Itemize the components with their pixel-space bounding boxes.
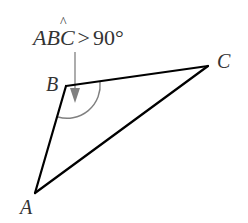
angle-hat: ^	[60, 15, 67, 30]
vertex-label-a: A	[18, 196, 33, 218]
angle-name-b: B	[46, 25, 59, 50]
angle-arc-b	[58, 82, 100, 118]
arrowhead-icon	[70, 88, 80, 103]
side-ca	[35, 66, 208, 193]
triangle-diagram: ABC>90° ^ A B C	[0, 0, 248, 223]
condition-value: 90°	[93, 25, 124, 50]
svg-text:ABC>90°: ABC>90°	[31, 25, 124, 50]
angle-condition: ABC>90° ^	[31, 15, 124, 50]
angle-name-a: A	[31, 25, 47, 50]
pointer-arrow	[70, 52, 80, 103]
condition-operator: >	[78, 25, 90, 50]
vertex-label-b: B	[46, 73, 58, 95]
triangle	[35, 66, 208, 193]
vertex-label-c: C	[217, 50, 231, 72]
side-ab	[35, 86, 66, 193]
